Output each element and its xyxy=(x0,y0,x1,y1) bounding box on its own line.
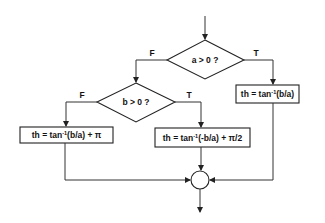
process-b-negative-pre: th = tan xyxy=(32,130,62,140)
process-b-positive: th = tan-1(-b/a) + π/2 xyxy=(155,128,250,147)
svg-text:th = tan-1(b/a): th = tan-1(b/a) xyxy=(241,89,294,99)
flowchart: a > 0 ? T F th = tan-1(b/a) b > 0 ? T F … xyxy=(0,0,325,223)
edge-d2-false-label: F xyxy=(79,90,84,100)
process-a-positive: th = tan-1(b/a) xyxy=(236,85,299,103)
process-a-positive-post: (b/a) xyxy=(276,89,294,99)
process-b-positive-pre: th = tan xyxy=(163,133,193,143)
edge-d2-true xyxy=(175,102,201,127)
edge-d2-true-label: T xyxy=(186,90,192,100)
svg-text:th = tan-1(b/a) + π: th = tan-1(b/a) + π xyxy=(32,130,102,140)
decision-a-positive: a > 0 ? xyxy=(167,40,244,79)
edge-d1-true xyxy=(244,60,273,84)
edge-d1-false xyxy=(136,60,167,82)
decision-b-label: b > 0 ? xyxy=(122,97,149,107)
edge-d1-true-label: T xyxy=(253,48,259,58)
process-b-negative-post: (b/a) + π xyxy=(67,130,102,140)
join-connector xyxy=(191,171,209,189)
process-a-positive-pre: th = tan xyxy=(241,89,271,99)
edge-left-to-join xyxy=(65,143,190,180)
svg-text:th = tan-1(-b/a) + π/2: th = tan-1(-b/a) + π/2 xyxy=(163,133,243,143)
edge-d2-false xyxy=(66,102,97,126)
edge-d1-false-label: F xyxy=(149,48,154,58)
process-b-positive-post: (-b/a) + π/2 xyxy=(198,133,242,143)
decision-b-positive: b > 0 ? xyxy=(97,83,175,122)
process-b-negative: th = tan-1(b/a) + π xyxy=(20,127,113,143)
decision-a-label: a > 0 ? xyxy=(192,55,219,65)
